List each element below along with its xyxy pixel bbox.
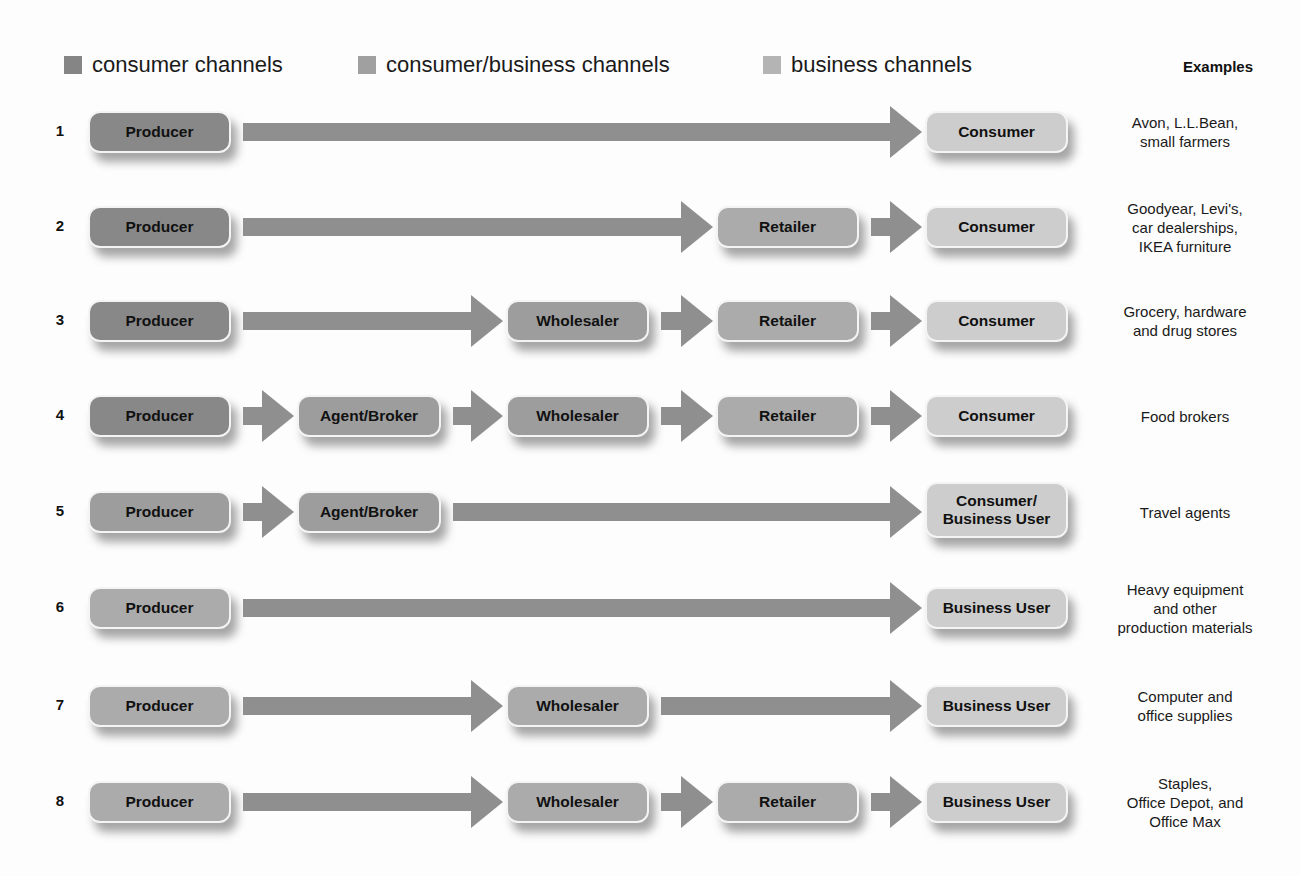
- example-text: Computer and office supplies: [1090, 687, 1280, 725]
- row-number: 1: [52, 122, 68, 139]
- arrow-shaft: [453, 407, 472, 425]
- channel-row-6: 6ProducerBusiness UserHeavy equipment an…: [0, 578, 1301, 638]
- arrow-shaft: [661, 793, 682, 811]
- node-retailer: Retailer: [716, 300, 859, 342]
- arrow-shaft: [243, 697, 472, 715]
- arrow-head-icon: [890, 390, 922, 442]
- arrow-head-icon: [471, 390, 503, 442]
- arrow-head-icon: [262, 486, 294, 538]
- node-producer: Producer: [88, 395, 231, 437]
- flow-arrow-icon: [871, 776, 922, 828]
- arrow-head-icon: [262, 390, 294, 442]
- arrow-shaft: [871, 312, 891, 330]
- legend-swatch-business: [763, 56, 781, 74]
- example-text: Grocery, hardware and drug stores: [1090, 302, 1280, 340]
- arrow-shaft: [871, 793, 891, 811]
- node-producer: Producer: [88, 491, 231, 533]
- flow-arrow-icon: [243, 486, 294, 538]
- flow-arrow-icon: [453, 390, 503, 442]
- arrow-head-icon: [471, 776, 503, 828]
- flow-arrow-icon: [243, 582, 922, 634]
- legend-label: business channels: [791, 52, 972, 78]
- arrow-shaft: [243, 218, 682, 236]
- node-producer: Producer: [88, 685, 231, 727]
- arrow-head-icon: [890, 201, 922, 253]
- arrow-head-icon: [681, 295, 713, 347]
- flow-arrow-icon: [661, 680, 922, 732]
- arrow-head-icon: [471, 680, 503, 732]
- flow-arrow-icon: [871, 390, 922, 442]
- node-agent-broker: Agent/Broker: [297, 395, 441, 437]
- example-text: Heavy equipment and other production mat…: [1090, 580, 1280, 637]
- arrow-shaft: [871, 407, 891, 425]
- channel-row-5: 5ProducerAgent/BrokerConsumer/ Business …: [0, 482, 1301, 542]
- flow-arrow-icon: [871, 295, 922, 347]
- node-end-user: Business User: [925, 781, 1068, 823]
- node-end-user: Consumer/ Business User: [925, 482, 1068, 538]
- arrow-shaft: [661, 407, 682, 425]
- legend-consumer-channels: consumer channels: [64, 52, 283, 78]
- node-end-user: Consumer: [925, 300, 1068, 342]
- legend-business-channels: business channels: [763, 52, 972, 78]
- arrow-head-icon: [890, 486, 922, 538]
- arrow-shaft: [661, 312, 682, 330]
- arrow-shaft: [243, 503, 263, 521]
- flow-arrow-icon: [243, 106, 922, 158]
- row-number: 7: [52, 696, 68, 713]
- flow-arrow-icon: [661, 295, 713, 347]
- flow-arrow-icon: [871, 201, 922, 253]
- node-agent-broker: Agent/Broker: [297, 491, 441, 533]
- arrow-shaft: [243, 599, 891, 617]
- node-end-user: Consumer: [925, 111, 1068, 153]
- node-producer: Producer: [88, 206, 231, 248]
- legend-label: consumer/business channels: [386, 52, 670, 78]
- example-text: Travel agents: [1090, 503, 1280, 522]
- arrow-head-icon: [890, 582, 922, 634]
- channel-row-1: 1ProducerConsumerAvon, L.L.Bean, small f…: [0, 102, 1301, 162]
- arrow-shaft: [243, 407, 263, 425]
- legend-swatch-consumer-business: [358, 56, 376, 74]
- example-text: Goodyear, Levi's, car dealerships, IKEA …: [1090, 199, 1280, 256]
- node-wholesaler: Wholesaler: [506, 685, 649, 727]
- node-producer: Producer: [88, 300, 231, 342]
- node-wholesaler: Wholesaler: [506, 300, 649, 342]
- row-number: 5: [52, 502, 68, 519]
- arrow-head-icon: [890, 106, 922, 158]
- channel-row-7: 7ProducerWholesalerBusiness UserComputer…: [0, 676, 1301, 736]
- node-producer: Producer: [88, 111, 231, 153]
- flow-arrow-icon: [243, 776, 503, 828]
- example-text: Staples, Office Depot, and Office Max: [1090, 774, 1280, 831]
- node-retailer: Retailer: [716, 395, 859, 437]
- node-wholesaler: Wholesaler: [506, 395, 649, 437]
- arrow-head-icon: [890, 295, 922, 347]
- row-number: 4: [52, 406, 68, 423]
- channel-row-2: 2ProducerRetailerConsumerGoodyear, Levi'…: [0, 197, 1301, 257]
- node-end-user: Business User: [925, 685, 1068, 727]
- arrow-head-icon: [890, 680, 922, 732]
- row-number: 8: [52, 792, 68, 809]
- flow-arrow-icon: [661, 390, 713, 442]
- arrow-head-icon: [890, 776, 922, 828]
- flow-arrow-icon: [661, 776, 713, 828]
- flow-arrow-icon: [243, 201, 713, 253]
- flow-arrow-icon: [243, 295, 503, 347]
- node-producer: Producer: [88, 781, 231, 823]
- row-number: 6: [52, 598, 68, 615]
- channel-row-8: 8ProducerWholesalerRetailerBusiness User…: [0, 772, 1301, 832]
- arrow-head-icon: [681, 390, 713, 442]
- legend-swatch-consumer: [64, 56, 82, 74]
- row-number: 3: [52, 311, 68, 328]
- arrow-shaft: [453, 503, 891, 521]
- arrow-shaft: [243, 123, 891, 141]
- channel-row-4: 4ProducerAgent/BrokerWholesalerRetailerC…: [0, 386, 1301, 446]
- example-text: Avon, L.L.Bean, small farmers: [1090, 113, 1280, 151]
- arrow-head-icon: [681, 201, 713, 253]
- arrow-head-icon: [681, 776, 713, 828]
- flow-arrow-icon: [243, 390, 294, 442]
- arrow-shaft: [243, 793, 472, 811]
- node-retailer: Retailer: [716, 206, 859, 248]
- node-retailer: Retailer: [716, 781, 859, 823]
- flow-arrow-icon: [243, 680, 503, 732]
- example-text: Food brokers: [1090, 407, 1280, 426]
- row-number: 2: [52, 217, 68, 234]
